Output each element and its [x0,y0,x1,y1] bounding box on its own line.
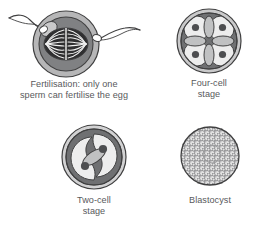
caption-line: Two-cell [77,195,111,206]
blocked-sperm-tail [9,15,42,29]
caption-line: Fertilisation: only one [20,79,128,90]
caption-line: Four-cell [191,78,227,89]
caption-line: Blastocyst [189,195,231,206]
caption-line: sperm can fertilise the egg [20,90,128,101]
blastocyst-diagram [172,118,248,194]
panel-blastocyst: Blastocyst [162,118,258,206]
nucleus [219,51,226,58]
two-cell-stage-diagram [59,122,129,192]
caption-four-cell: Four-cell stage [191,78,227,100]
caption-line: stage [77,206,111,217]
panel-four-cell: Four-cell stage [160,6,258,100]
panel-two-cell: Two-cell stage [44,122,144,217]
panel-fertilisation: Fertilisation: only one sperm can fertil… [4,4,144,101]
caption-fertilisation: Fertilisation: only one sperm can fertil… [20,79,128,101]
four-cell-stage-diagram [174,6,244,76]
nucleus [99,145,107,153]
nucleus [192,24,199,31]
meiotic-spindle [44,28,88,60]
caption-two-cell: Two-cell stage [77,195,111,217]
trophoblast-cell-mass [181,127,239,185]
nucleus [192,51,199,58]
caption-blastocyst: Blastocyst [189,195,231,206]
nucleus [219,24,226,31]
embryo-development-figure: Fertilisation: only one sperm can fertil… [0,0,263,229]
fertilisation-diagram [4,4,144,78]
nucleus [81,162,89,170]
fertilising-sperm-tail [101,28,140,40]
caption-line: stage [191,89,227,100]
